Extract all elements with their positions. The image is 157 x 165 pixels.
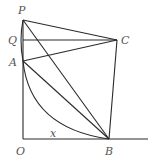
segment-AC [23, 40, 117, 61]
label-A: A [8, 56, 17, 69]
label-C: C [121, 34, 130, 47]
segment-PB [23, 20, 109, 139]
label-P: P [17, 4, 26, 17]
label-Q: Q [8, 34, 17, 47]
segment-CB [109, 40, 117, 139]
geometry-diagram: P Q A C O B x [0, 0, 157, 165]
label-x: x [50, 127, 57, 140]
label-B: B [104, 145, 113, 158]
label-O: O [16, 145, 25, 158]
segment-PC [23, 20, 117, 40]
